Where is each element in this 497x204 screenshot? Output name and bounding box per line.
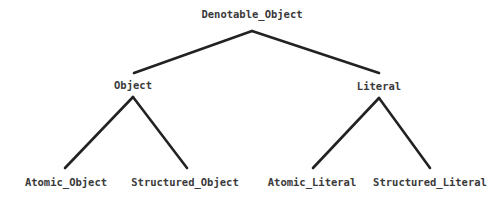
tree-diagram: Denotable_Object Object Literal Atomic_O… <box>0 0 497 204</box>
tree-diagram-canvas: Denotable_Object Object Literal Atomic_O… <box>0 0 497 204</box>
node-atomic-literal: Atomic_Literal <box>268 176 357 189</box>
node-atomic-object: Atomic_Object <box>25 176 107 189</box>
edge-literal-to-atomic-literal <box>313 98 379 168</box>
node-literal: Literal <box>357 80 401 92</box>
node-denotable-object: Denotable_Object <box>201 8 302 21</box>
edge-root-to-literal <box>252 31 379 73</box>
node-structured-object: Structured_Object <box>131 176 238 189</box>
node-object: Object <box>114 79 152 91</box>
node-structured-literal: Structured_Literal <box>373 176 487 189</box>
edge-root-to-object <box>134 31 252 73</box>
edge-object-to-structured-object <box>133 97 187 168</box>
edge-literal-to-structured-literal <box>379 98 430 168</box>
edge-object-to-atomic-object <box>65 97 133 168</box>
